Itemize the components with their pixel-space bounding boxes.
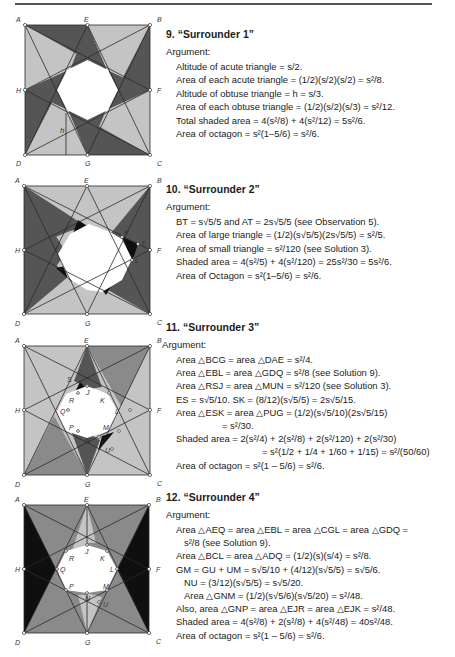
solution-title: 10. “Surrounder 2”	[166, 183, 455, 196]
argument-line: Area △BCG = area △DAE = s²/4.	[176, 353, 455, 366]
surrounder-4-diagram	[14, 493, 164, 643]
argument-line: Altitude of acute triangle = s/2.	[176, 60, 455, 73]
vertex-label-e: E	[84, 337, 89, 344]
vertex-label-f: F	[157, 247, 161, 254]
argument-line: Area △EBL = area △GDQ = s²/8 (see Soluti…	[176, 366, 455, 379]
figure-surrounder-3: A E B F C G D H S J R K Q L P M N U	[14, 334, 164, 484]
argument-line: Area △ESK = area △PUG = (1/2)(s√5/10)(2s…	[176, 406, 455, 419]
point-label-j: J	[86, 389, 90, 396]
point-label-s: S	[67, 376, 72, 383]
argument-line: Shaded area = 4(s²/5) + 4(s²/120) = 25s²…	[176, 255, 455, 268]
surrounder-2-diagram	[14, 174, 164, 324]
argument-line: NU = (3/12)(s√5/5) = s√5/20.	[184, 576, 455, 589]
altitude-label-h: h	[60, 127, 64, 135]
argument-line: GM = GU + UM = s√5/10 + (4/12)(s√5/5) = …	[176, 563, 455, 576]
argument-line: Area of small triangle = s²/120 (see Sol…	[176, 242, 455, 255]
vertex-label-a: A	[16, 16, 21, 23]
argument-line: Area of octagon = s²(1–5/6) = s²/6.	[176, 127, 455, 140]
point-label-t: T	[141, 240, 145, 247]
point-label-m: M	[103, 583, 109, 590]
solution-title: 12. “Surrounder 4”	[166, 491, 455, 504]
vertex-label-f: F	[156, 566, 160, 573]
solution-10: 10. “Surrounder 2” Argument: BT = s√5/5 …	[166, 183, 455, 282]
argument-label: Argument:	[166, 201, 455, 213]
point-label-r: R	[69, 555, 74, 562]
point-label-q: Q	[60, 408, 65, 415]
solution-9: 9. “Surrounder 1” Argument: Altitude of …	[166, 28, 455, 140]
solution-title: 9. “Surrounder 1”	[166, 28, 455, 41]
vertex-label-e: E	[84, 16, 89, 23]
argument-label: Argument:	[166, 46, 455, 58]
surrounder-1-diagram	[14, 12, 164, 162]
vertex-label-a: A	[15, 496, 20, 503]
vertex-label-h: H	[15, 247, 20, 254]
argument-line: Area △BCL = area △ADQ = (1/2)(s)(s/4) = …	[176, 549, 455, 562]
argument-line: Area of Octagon = s²(1–5/6) = s²/6.	[176, 269, 455, 282]
vertex-label-g: G	[85, 481, 90, 488]
point-label-n: N	[85, 437, 90, 444]
argument-line: = s²(1/2 + 1/4 + 1/60 + 1/15) = s²/(50/6…	[262, 445, 455, 458]
argument-line: Area of large triangle = (1/2)(s√5/5)(2s…	[176, 228, 455, 241]
vertex-label-h: H	[15, 566, 20, 573]
argument-line: Also, area △GNP = area △EJR = area △EJK …	[176, 602, 455, 615]
page-top-rule	[15, 3, 432, 5]
point-label-k: K	[100, 555, 105, 562]
vertex-label-c: C	[157, 160, 162, 167]
point-label-r: R	[69, 397, 74, 404]
point-label-j: J	[85, 548, 89, 555]
point-label-m: M	[103, 424, 109, 431]
vertex-label-c: C	[156, 638, 161, 645]
point-label-q: Q	[60, 566, 65, 573]
argument-line: Area of octagon = s²(1 – 5/6) = s²/6.	[176, 629, 455, 642]
argument-line: Shaded area = 4(s²/8) + 2(s²/8) + 4(s²/4…	[176, 615, 455, 628]
argument-line: s²/8 (see Solution 9).	[184, 536, 455, 549]
solution-title: 11. “Surrounder 3”	[166, 321, 455, 334]
vertex-label-h: H	[16, 87, 21, 94]
point-label-p: P	[69, 583, 74, 590]
vertex-label-b: B	[157, 16, 162, 23]
point-label-u: U	[105, 447, 110, 454]
argument-line: Altitude of obtuse triangle = h = s/3.	[176, 87, 455, 100]
vertex-label-b: B	[157, 177, 162, 184]
figure-surrounder-2: A E B F C G D H K T L	[14, 174, 164, 324]
vertex-label-e: E	[84, 177, 89, 184]
vertex-label-e: E	[84, 496, 89, 503]
vertex-label-g: G	[85, 639, 90, 646]
argument-line: = s²/30.	[222, 419, 455, 432]
argument-line: ES = s√5/10. SK = (8/12)(s√5/5) = 2s√5/1…	[176, 393, 455, 406]
point-label-k: K	[100, 397, 105, 404]
argument-line: Area of octagon = s²(1 – 5/6) = s²/6.	[176, 459, 455, 472]
argument-line: Area △AEQ = area △EBL = area △CGL = area…	[176, 523, 455, 536]
vertex-label-g: G	[85, 320, 90, 327]
vertex-label-a: A	[15, 337, 20, 344]
point-label-l: L	[135, 257, 139, 264]
vertex-label-g: G	[85, 160, 90, 167]
argument-line: Area of each obtuse triangle = (1/2)(s/2…	[176, 100, 455, 113]
vertex-label-b: B	[157, 337, 162, 344]
argument-label: Argument:	[166, 509, 455, 521]
argument-line: Total shaded area = 4(s²/8) + 4(s²/12) =…	[176, 114, 455, 127]
point-label-p: P	[69, 424, 74, 431]
solution-11: 11. “Surrounder 3” Argument: Area △BCG =…	[166, 330, 455, 472]
figure-surrounder-1: A E B F C G D H h	[14, 12, 164, 162]
vertex-label-d: D	[15, 320, 20, 327]
vertex-label-c: C	[157, 319, 162, 326]
point-label-n: N	[85, 595, 90, 602]
argument-line: Area △GNM = (1/2)(s√5/6)(s√5/20) = s²/48…	[184, 589, 455, 602]
vertex-label-f: F	[157, 407, 161, 414]
point-label-l: L	[110, 566, 114, 573]
point-label-l: L	[115, 408, 119, 415]
argument-line: Area △RSJ = area △MUN = s²/120 (see Solu…	[176, 379, 455, 392]
vertex-label-d: D	[15, 481, 20, 488]
vertex-label-d: D	[16, 160, 21, 167]
vertex-label-c: C	[157, 480, 162, 487]
vertex-label-f: F	[157, 87, 161, 94]
point-label-u: U	[103, 601, 108, 608]
argument-line: BT = s√5/5 and AT = 2s√5/5 (see Observat…	[176, 215, 455, 228]
argument-line: Shaded area = 2(s²/4) + 2(s²/8) + 2(s²/1…	[176, 432, 455, 445]
point-label-k: K	[124, 229, 129, 236]
solution-12: 12. “Surrounder 4” Argument: Area △AEQ =…	[166, 491, 455, 642]
vertex-label-a: A	[15, 177, 20, 184]
figure-surrounder-4: A E B F C G D H J R K Q L P M N U	[14, 493, 164, 643]
argument-label: Argument:	[162, 339, 455, 351]
